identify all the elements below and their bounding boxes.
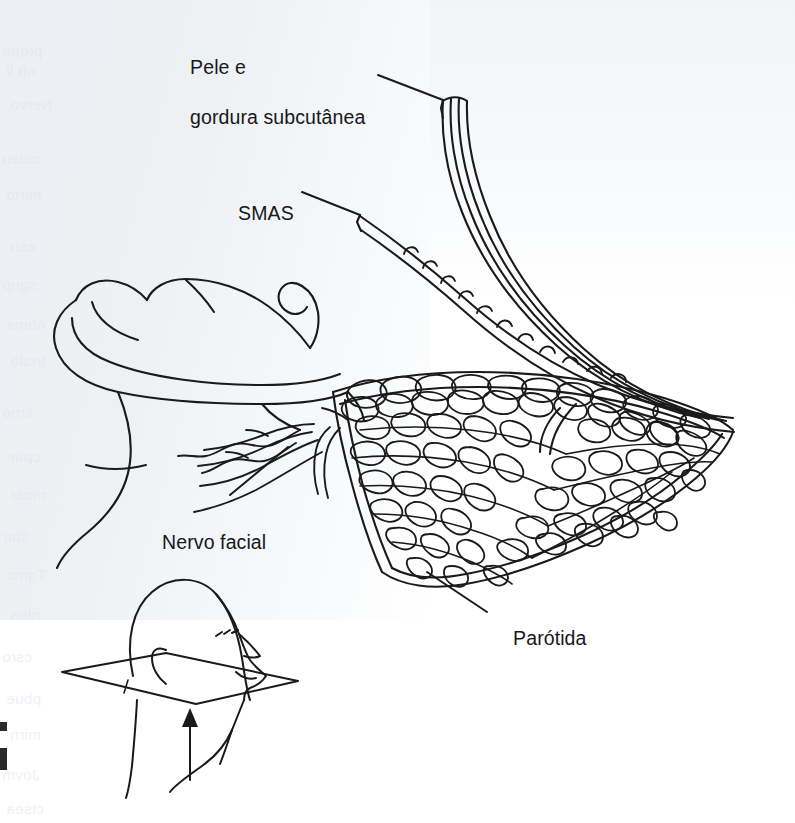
mandible-ramus (54, 279, 364, 430)
label-smas-text: SMAS (238, 202, 294, 224)
inset-cutting-plane (62, 653, 298, 704)
mandible-coronoid-top (147, 279, 310, 348)
neck-anterior-contour (57, 392, 131, 568)
label-skin-and-fat-line1: Pele e (190, 56, 246, 78)
skin-flap-end-cap-right (443, 97, 467, 101)
leader-line-skin-fat (378, 75, 443, 100)
label-skin-and-fat-line2: gordura subcutânea (190, 106, 365, 128)
facial-nerve-trunk-2 (324, 428, 340, 498)
label-skin-and-fat: Pele e gordura subcutânea (168, 30, 365, 155)
skin-flap-middle-line (451, 99, 709, 419)
inset-neck-back (126, 700, 137, 798)
mandible-notch (186, 280, 214, 312)
anatomical-line-art (0, 0, 795, 823)
inset-eyebrow-b (224, 630, 230, 634)
facial-nerve-small-twig-a (246, 430, 268, 436)
label-parotid: Parótida (491, 601, 587, 676)
neck-deep-contour (86, 465, 146, 469)
inset-jaw-chin (170, 700, 244, 792)
inset-view-arrow (182, 708, 198, 780)
inset-skull-contour (130, 580, 250, 700)
label-parotid-text: Parótida (513, 627, 586, 649)
leader-lines (230, 75, 487, 612)
parotid-lobules-body (351, 413, 707, 587)
label-smas: SMAS (216, 176, 294, 251)
label-facial-nerve-text: Nervo facial (162, 531, 266, 553)
mandible-upper-body (76, 281, 147, 300)
inset-mouth (236, 672, 256, 679)
figure-page: prqtmnb liNervooideumirtocausgnpnbmatrcd… (0, 0, 795, 823)
neck-soft-tissue (57, 392, 146, 568)
inset-face-profile (216, 594, 266, 700)
facial-nerve (178, 408, 348, 512)
parotid-lower-border-inner (392, 434, 722, 577)
parotid-anterior-border (333, 392, 382, 572)
inset-eyebrow-a (216, 632, 222, 636)
orientation-inset (62, 580, 298, 798)
parotid-notch-ridge (550, 404, 576, 454)
facial-nerve-trunk (314, 427, 330, 494)
mandible-condyle-neck (302, 286, 319, 348)
skin-flap-outer-line (443, 101, 700, 418)
leader-line-smas (302, 192, 360, 215)
mandible-inner-shadow (92, 302, 138, 340)
label-facial-nerve: Nervo facial (140, 505, 266, 580)
